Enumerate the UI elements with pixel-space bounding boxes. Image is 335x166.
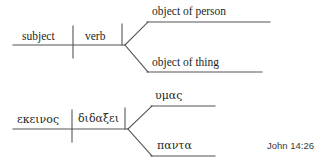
greek-lower-branch — [128, 129, 152, 156]
greek-slot-object-of-thing: παντα — [157, 140, 192, 151]
schematic-lower-branch — [125, 45, 148, 72]
greek-slot-verb: διδαξει — [78, 113, 119, 124]
greek-slot-object-of-person: υμας — [155, 90, 182, 101]
schematic-upper-branch — [125, 22, 148, 45]
schematic-slot-object-of-thing: object of thing — [152, 57, 219, 69]
diagram-canvas: subject verb object of person object of … — [0, 0, 335, 166]
schematic-slot-object-of-person: object of person — [152, 6, 226, 18]
scripture-citation: John 14:26 — [267, 141, 314, 151]
greek-upper-branch — [128, 106, 152, 129]
schematic-slot-subject: subject — [22, 31, 55, 43]
greek-slot-subject: εκεινος — [17, 114, 59, 125]
schematic-slot-verb: verb — [85, 31, 105, 43]
